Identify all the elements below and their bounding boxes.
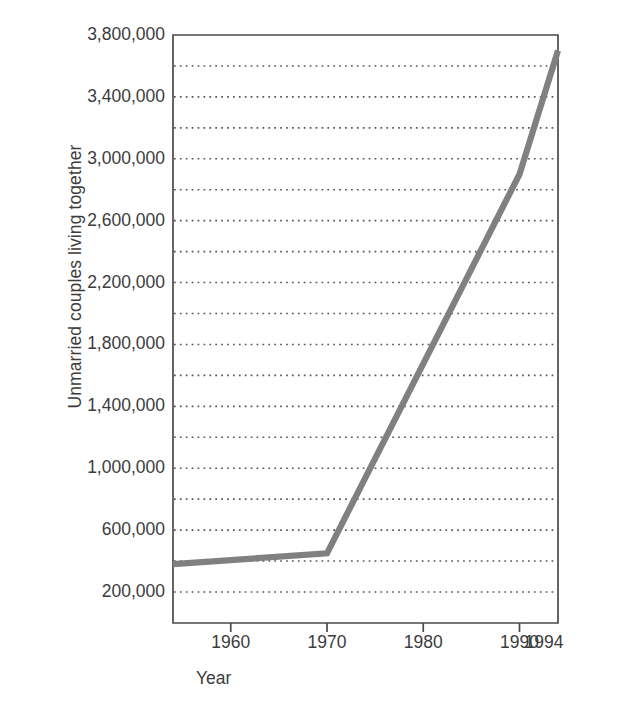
plot-border [173,35,558,623]
data-line-series [173,50,558,564]
x-tick-label: 1994 [525,634,564,652]
gridlines [174,66,557,592]
x-tick-label: 1960 [211,634,250,652]
plot-frame [173,35,558,623]
x-tick-label: 1970 [308,634,347,652]
chart-figure: Unmarried couples living together Year 3… [0,0,617,702]
x-tick-label: 1980 [404,634,443,652]
data-line [173,50,558,564]
line-chart-plot [0,0,617,702]
x-axis-tick-marks [231,623,520,632]
